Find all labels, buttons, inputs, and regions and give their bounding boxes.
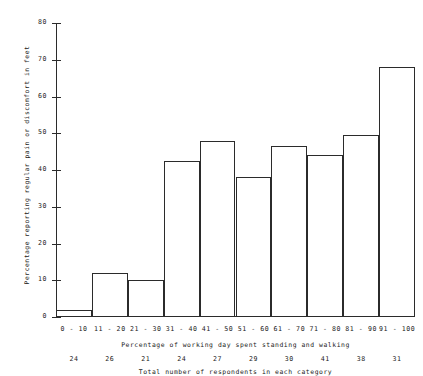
bar	[200, 141, 236, 317]
respondent-count-value: 41	[307, 355, 343, 363]
y-axis-tick: 30	[52, 207, 61, 208]
y-axis-tick-label: 40	[38, 165, 47, 173]
y-axis-tick: 10	[52, 280, 61, 281]
y-axis-tick: 60	[52, 97, 61, 98]
x-axis-tick-label: 0 - 10	[56, 325, 92, 333]
bar	[271, 146, 307, 317]
y-axis-tick: 40	[52, 170, 61, 171]
y-axis-tick-label: 80	[38, 18, 47, 26]
respondent-count-value: 24	[164, 355, 200, 363]
bar	[343, 135, 379, 317]
y-axis-tick: 70	[52, 60, 61, 61]
x-axis-tick-label: 51 - 60	[236, 325, 272, 333]
x-axis-tick-label: 91 - 100	[379, 325, 415, 333]
y-axis-tick-label: 10	[38, 275, 47, 283]
y-axis-tick-label: 70	[38, 55, 47, 63]
x-axis-tick-label: 21 - 30	[128, 325, 164, 333]
bar	[236, 177, 272, 317]
respondent-count-value: 26	[92, 355, 128, 363]
respondent-count-value: 38	[343, 355, 379, 363]
x-axis-tick-label: 41 - 50	[200, 325, 236, 333]
respondent-count-value: 21	[128, 355, 164, 363]
bar	[307, 155, 343, 317]
x-axis-tick-label: 71 - 80	[307, 325, 343, 333]
respondent-counts-title: Total number of respondents in each cate…	[56, 368, 415, 376]
y-axis-title: Percentage reporting regular pain or dis…	[20, 5, 34, 325]
bar	[379, 67, 415, 317]
bar	[92, 273, 128, 317]
y-axis-tick-label: 30	[38, 202, 47, 210]
x-axis-tick-label: 31 - 40	[164, 325, 200, 333]
x-axis-tick-label: 11 - 20	[92, 325, 128, 333]
respondent-count-value: 27	[200, 355, 236, 363]
bar	[56, 310, 92, 317]
x-axis-tick-label: 81 - 90	[343, 325, 379, 333]
x-axis-title: Percentage of working day spent standing…	[56, 341, 415, 349]
y-axis-tick-label: 50	[38, 128, 47, 136]
respondent-count-value: 24	[56, 355, 92, 363]
respondent-count-value: 31	[379, 355, 415, 363]
y-axis-tick-label: 0	[43, 312, 47, 320]
respondent-count-value: 30	[271, 355, 307, 363]
y-axis-tick-label: 60	[38, 92, 47, 100]
x-axis-tick-label: 61 - 70	[271, 325, 307, 333]
plot-area: 01020304050607080 0 - 1011 - 2021 - 3031…	[56, 23, 415, 317]
respondent-count-value: 29	[236, 355, 272, 363]
y-axis-tick-label: 20	[38, 239, 47, 247]
y-axis-tick: 50	[52, 133, 61, 134]
y-axis-tick: 80	[52, 23, 61, 24]
y-axis-tick: 20	[52, 244, 61, 245]
y-axis-tick: 0	[52, 317, 61, 318]
bar	[128, 280, 164, 317]
bar	[164, 161, 200, 317]
